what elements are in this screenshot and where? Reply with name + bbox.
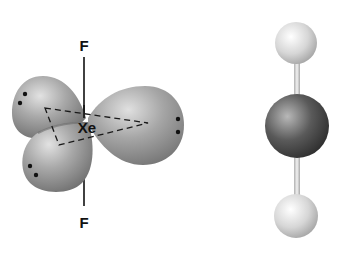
atom-label-f-top: F — [79, 37, 88, 54]
ball-and-stick-model — [265, 22, 329, 238]
xef2-diagram: F F Xe — [0, 0, 342, 256]
atom-label-xe: Xe — [78, 119, 96, 136]
electron-domain-model: F F Xe — [12, 37, 184, 231]
bond-bottom — [294, 152, 300, 200]
xenon-atom — [265, 94, 329, 158]
lone-pair-lobe-right — [88, 86, 184, 165]
fluorine-atom-bottom — [274, 194, 318, 238]
bond-top — [294, 58, 300, 100]
atom-label-f-bottom: F — [79, 214, 88, 231]
fluorine-atom-top — [275, 22, 317, 64]
